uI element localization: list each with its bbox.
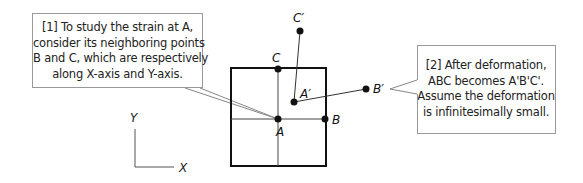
callout-1: [1] To study the strain at A, consider i…	[32, 13, 203, 88]
label-b: B	[332, 113, 340, 127]
callout-1-line-3: B and C, which are respectively	[33, 51, 202, 67]
y-axis-label: Y	[130, 111, 139, 125]
label-b-prime: B′	[373, 82, 384, 96]
label-c: C	[272, 51, 281, 65]
label-c-prime: C′	[293, 11, 304, 25]
callout-2: [2] After deformation, ABC becomes A'B'C…	[417, 45, 556, 134]
callout-2-line-3: Assume the deformation	[417, 89, 555, 105]
point-c-prime	[297, 28, 304, 35]
point-b-prime	[363, 86, 370, 93]
callout-2-line-4: is infinitesimally small.	[417, 105, 555, 121]
callout-1-line-2: consider its neighboring points	[33, 36, 202, 52]
point-a	[275, 116, 282, 123]
point-a-prime	[291, 99, 298, 106]
point-c	[275, 66, 282, 73]
label-a-prime: A′	[299, 87, 311, 101]
axes-indicator	[135, 129, 174, 167]
point-b	[322, 116, 329, 123]
callout-1-line-1: [1] To study the strain at A,	[33, 20, 202, 36]
label-a: A	[275, 125, 284, 139]
callout-2-pointer	[390, 80, 417, 94]
callout-2-line-1: [2] After deformation,	[417, 58, 555, 74]
callout-2-line-2: ABC becomes A'B'C'.	[417, 74, 555, 90]
callout-1-line-4: along X-axis and Y-axis.	[33, 67, 202, 83]
x-axis-label: X	[178, 161, 188, 175]
